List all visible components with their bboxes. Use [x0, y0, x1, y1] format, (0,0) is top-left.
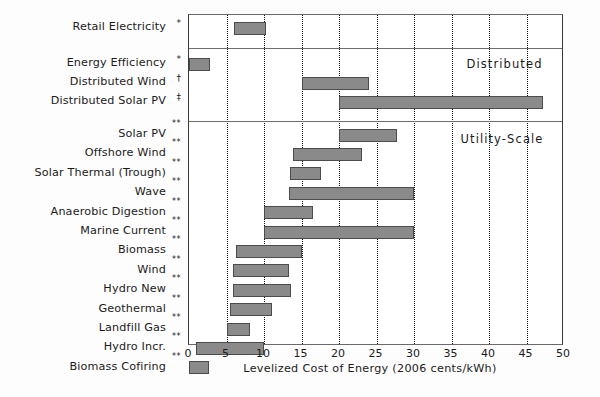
gridline-5 [227, 15, 228, 344]
footnote-marker-13: ** [172, 274, 181, 283]
category-label-distributed-solar-pv: Distributed Solar PV [51, 95, 166, 107]
footnote-marker-16: ** [172, 332, 181, 341]
category-label-offshore-wind: Offshore Wind [85, 147, 166, 159]
bar-landfill-gas [227, 323, 250, 336]
category-label-wind: Wind [137, 264, 166, 276]
category-label-hydro-new: Hydro New [103, 283, 166, 295]
bar-hydro-new [233, 284, 292, 297]
footnote-marker-11: ** [172, 235, 181, 244]
bar-offshore-wind [293, 148, 362, 161]
category-label-retail-electricity: Retail Electricity [73, 21, 166, 33]
footnote-marker-6: ** [172, 138, 181, 147]
x-tick-20: 20 [331, 347, 345, 360]
footnote-marker-5: ** [172, 119, 181, 128]
gridline-35 [452, 15, 453, 344]
bar-wave [289, 187, 414, 200]
gridline-40 [489, 15, 490, 344]
bar-hydro-incr [196, 342, 264, 355]
bar-marine-current [264, 226, 414, 239]
category-label-biomass: Biomass [118, 244, 166, 256]
x-tick-35: 35 [444, 347, 458, 360]
group-label-distributed: Distributed [467, 57, 543, 71]
category-label-energy-efficiency: Energy Efficiency [67, 57, 166, 69]
separator-retail-distributed [189, 48, 562, 49]
category-label-hydro-incr: Hydro Incr. [104, 341, 166, 353]
bar-energy-efficiency [189, 58, 210, 71]
footnote-marker-8: ** [172, 177, 181, 186]
category-label-solar-pv: Solar PV [118, 128, 166, 140]
bar-solar-thermal-trough [290, 167, 321, 180]
levelized-cost-chart: Retail Electricity*Energy Efficiency*Dis… [0, 0, 600, 397]
footnote-marker-3: † [177, 74, 182, 83]
bar-biomass [236, 245, 301, 258]
x-tick-30: 30 [406, 347, 420, 360]
category-label-landfill-gas: Landfill Gas [99, 322, 166, 334]
footnote-marker-4: ‡ [177, 93, 182, 102]
x-tick-0: 0 [185, 347, 192, 360]
footnote-marker-1: * [177, 19, 182, 28]
footnote-marker-17: ** [172, 352, 181, 361]
category-label-geothermal: Geothermal [98, 303, 166, 315]
group-label-utility-scale: Utility-Scale [461, 132, 544, 146]
plot-area: Distributed Utility-Scale [188, 14, 563, 345]
footnote-marker-12: ** [172, 255, 181, 264]
gridline-25 [377, 15, 378, 344]
x-tick-5: 5 [222, 347, 229, 360]
category-label-anaerobic-digestion: Anaerobic Digestion [51, 206, 166, 218]
gridline-30 [414, 15, 415, 344]
x-tick-15: 15 [294, 347, 308, 360]
footnote-marker-7: ** [172, 158, 181, 167]
bar-retail-electricity [234, 22, 266, 35]
footnote-marker-15: ** [172, 313, 181, 322]
category-label-marine-current: Marine Current [80, 225, 166, 237]
x-tick-50: 50 [556, 347, 570, 360]
bar-wind [233, 264, 289, 277]
x-tick-10: 10 [256, 347, 270, 360]
footnote-marker-2: * [177, 55, 182, 64]
category-label-distributed-wind: Distributed Wind [70, 76, 166, 88]
bar-distributed-solar-pv [339, 96, 543, 109]
x-axis-title-text: Levelized Cost of Energy (2006 cents/kWh… [243, 362, 496, 375]
footnote-marker-10: ** [172, 216, 181, 225]
gridline-45 [527, 15, 528, 344]
bar-distributed-wind [302, 77, 370, 90]
x-tick-45: 45 [519, 347, 533, 360]
category-label-solar-thermal-trough: Solar Thermal (Trough) [35, 167, 166, 179]
category-label-column: Retail Electricity*Energy Efficiency*Dis… [0, 0, 188, 345]
category-label-wave: Wave [135, 186, 166, 198]
bar-geothermal [230, 303, 272, 316]
x-axis-title: Levelized Cost of Energy (2006 cents/kWh… [0, 362, 600, 375]
gridline-20 [339, 15, 340, 344]
footnote-marker-9: ** [172, 197, 181, 206]
footnote-marker-14: ** [172, 294, 181, 303]
x-tick-25: 25 [369, 347, 383, 360]
bar-solar-pv [339, 129, 397, 142]
bar-anaerobic-digestion [264, 206, 313, 219]
x-tick-40: 40 [481, 347, 495, 360]
separator-distributed-utility [189, 121, 562, 122]
